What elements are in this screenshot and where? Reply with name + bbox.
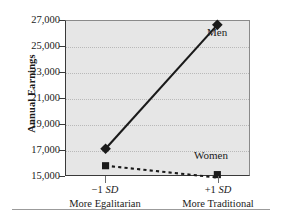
x-tick-sign: +1 xyxy=(205,184,216,195)
men-line xyxy=(106,25,218,149)
y-tick-label: 21,000 xyxy=(0,93,60,103)
x-tick-unit: SD xyxy=(218,184,231,195)
series-label-men: Men xyxy=(207,26,227,38)
x-tick-sign: −1 xyxy=(92,184,103,195)
y-tick-label: 23,000 xyxy=(0,67,60,77)
women-marker-point xyxy=(102,162,109,169)
y-tick-label: 17,000 xyxy=(0,145,60,155)
women-line xyxy=(106,166,218,178)
y-tick-label: 25,000 xyxy=(0,41,60,51)
series-label-women: Women xyxy=(194,149,228,161)
y-tick-mark xyxy=(59,176,65,177)
x-tick-mark xyxy=(218,176,219,183)
y-tick-label: 27,000 xyxy=(0,15,60,25)
bottom-rule xyxy=(12,209,270,210)
x-tick-unit: SD xyxy=(105,184,118,195)
x-tick-mark xyxy=(105,176,106,183)
x-tick-label: +1 SD xyxy=(148,184,281,195)
y-tick-label: 19,000 xyxy=(0,119,60,129)
figure: Annual Earnings 27,000 25,000 23,000 21,… xyxy=(0,0,281,217)
y-tick-label: 15,000 xyxy=(0,171,60,181)
x-tick-sublabel: More Traditional xyxy=(148,198,281,209)
